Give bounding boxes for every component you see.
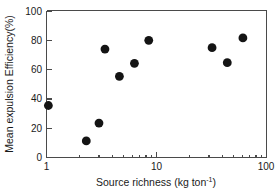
y-tick-label-60: 60 <box>31 64 43 75</box>
y-tick-label-20: 20 <box>31 123 43 134</box>
y-axis-ticks <box>47 11 52 158</box>
plot-border <box>47 11 267 158</box>
y-tick-label-0: 0 <box>36 152 42 163</box>
data-point <box>144 36 153 45</box>
data-point <box>82 137 91 146</box>
y-axis-tick-labels: 0 20 40 60 80 100 <box>25 6 42 164</box>
scatter-chart-figure: 0 20 40 60 80 100 <box>0 0 279 190</box>
data-point <box>44 101 53 110</box>
x-axis-title-tail: ) <box>213 176 217 188</box>
svg-text:Source richness (kg ton-1): Source richness (kg ton-1) <box>96 176 216 188</box>
x-tick-label-1: 1 <box>44 161 50 172</box>
data-point <box>238 34 247 43</box>
y-axis-title-text: Mean expulsion Efficiency(%) <box>3 15 15 153</box>
y-axis-title: Mean expulsion Efficiency(%) <box>3 15 15 153</box>
y-tick-label-80: 80 <box>31 35 43 46</box>
x-axis-title: Source richness (kg ton-1) <box>96 176 216 188</box>
data-point <box>115 72 124 81</box>
x-tick-label-100: 100 <box>258 161 275 172</box>
y-tick-label-100: 100 <box>25 6 42 17</box>
plot-frame <box>47 11 267 158</box>
x-axis-tick-labels: 1 10 100 <box>44 161 275 172</box>
data-point <box>130 59 139 68</box>
data-point <box>95 119 104 128</box>
data-point <box>208 43 217 52</box>
x-axis-title-main: Source richness (kg ton <box>96 176 206 188</box>
data-point <box>223 58 232 67</box>
y-tick-label-40: 40 <box>31 93 43 104</box>
x-tick-label-10: 10 <box>151 161 163 172</box>
data-point <box>101 45 110 54</box>
data-points-layer <box>44 34 247 146</box>
chart-svg: 0 20 40 60 80 100 <box>0 0 279 190</box>
